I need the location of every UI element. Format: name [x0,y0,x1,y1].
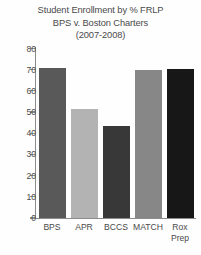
bars-layer [36,49,196,219]
bar-chart-figure: Student Enrollment by % FRLP BPS v. Bost… [0,0,201,255]
x-axis-label-bccs: BCCS [100,222,132,233]
x-axis-label-line: Rox [164,222,196,233]
x-axis-label-line: BPS [36,222,68,233]
y-tick-label: 0 [10,213,36,223]
x-axis-labels: BPSAPRBCCSMATCHRoxPrep [36,222,196,254]
y-tick-label: 50 [10,107,36,117]
y-tick-label: 30 [10,149,36,159]
y-axis-ticks: 01020304050607080 [0,0,36,255]
x-axis-label-line: MATCH [132,222,164,233]
x-axis-label-line: BCCS [100,222,132,233]
y-tick-label: 80 [10,44,36,54]
x-axis-label-apr: APR [68,222,100,233]
y-tick-label: 70 [10,65,36,75]
bar-match [135,70,162,218]
x-axis-line [35,218,196,219]
y-tick-label: 20 [10,171,36,181]
bar-rox-prep [167,69,194,218]
bar-bps [39,68,66,218]
x-axis-label-match: MATCH [132,222,164,233]
y-tick-label: 60 [10,86,36,96]
y-tick-label: 10 [10,192,36,202]
bar-bccs [103,126,130,218]
x-axis-label-line: Prep [164,233,196,244]
x-axis-label-rox-prep: RoxPrep [164,222,196,243]
bar-apr [71,109,98,218]
x-axis-label-bps: BPS [36,222,68,233]
x-axis-label-line: APR [68,222,100,233]
y-tick-label: 40 [10,128,36,138]
